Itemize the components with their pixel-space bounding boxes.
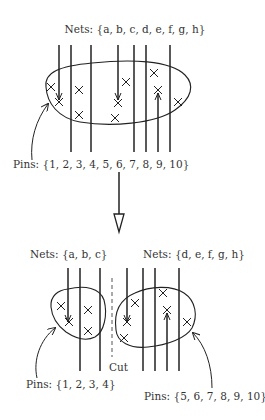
pin-5 <box>122 78 130 86</box>
top-pins-label: Pins: {1, 2, 3, 4, 5, 6, 7, 8, 9, 10} <box>13 158 189 171</box>
top-pins-pointer-arrow <box>32 104 48 160</box>
top-nets-label: Nets: {a, b, c, d, e, f, g, h} <box>65 23 206 36</box>
partition-diagram: Nets: {a, b, c, d, e, f, g, h} <box>0 0 265 420</box>
bottom-right-nets-label: Nets: {d, e, f, g, h} <box>143 248 245 261</box>
pin-5 <box>131 299 139 307</box>
pin-10 <box>183 318 191 326</box>
cut-label: Cut <box>109 361 129 373</box>
left-pins-pointer-arrow <box>36 328 55 378</box>
pin-7 <box>120 334 128 342</box>
pin-7 <box>111 114 119 122</box>
pin-3 <box>84 306 92 314</box>
pin-1 <box>57 302 65 310</box>
bottom-circuit: Nets: {a, b, c} Nets: {d, e, f, g, h} Cu… <box>26 248 265 403</box>
pin-6 <box>114 99 122 107</box>
right-pins-label: Pins: {5, 6, 7, 8, 9, 10} <box>144 390 265 403</box>
pin-8 <box>159 289 167 297</box>
pin-8 <box>150 69 158 77</box>
bottom-left-nets-label: Nets: {a, b, c} <box>30 248 107 261</box>
top-pins <box>47 69 182 122</box>
pin-9 <box>163 306 171 314</box>
hollow-arrowhead-icon <box>114 214 124 232</box>
left-pins <box>57 302 92 335</box>
left-nets <box>68 268 100 371</box>
pin-10 <box>174 98 182 106</box>
left-block-outline <box>51 287 106 339</box>
pin-4 <box>84 327 92 335</box>
pin-1 <box>47 83 55 91</box>
right-pins-pointer-arrow <box>193 333 212 388</box>
transform-arrow <box>114 172 124 232</box>
top-circuit: Nets: {a, b, c, d, e, f, g, h} <box>13 23 205 171</box>
pin-4 <box>75 111 83 119</box>
pin-3 <box>75 86 83 94</box>
right-nets <box>127 268 179 371</box>
pin-2 <box>65 318 73 326</box>
left-pins-label: Pins: {1, 2, 3, 4} <box>26 378 116 391</box>
pin-9 <box>154 86 162 94</box>
